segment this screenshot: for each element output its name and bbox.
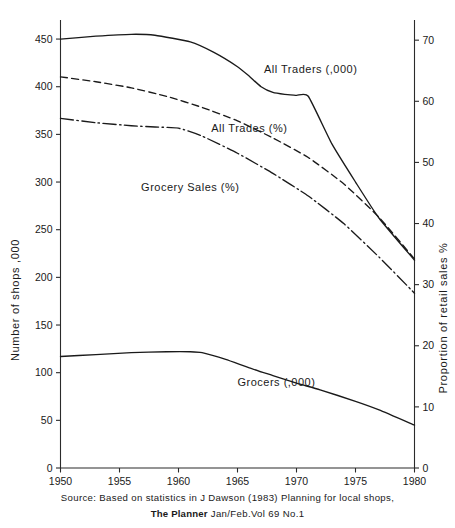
y-tick-label: 100 <box>35 366 53 378</box>
series-label-all-trades: All Trades (%) <box>211 122 287 134</box>
series-label-all-traders-000: All Traders (,000) <box>264 63 357 75</box>
x-tick-label: 1960 <box>167 475 191 487</box>
series-line-grocery-sales <box>61 118 415 293</box>
series-label-grocery-sales: Grocery Sales (%) <box>141 181 239 193</box>
series-line-grocers-000 <box>61 352 415 425</box>
y2-tick-label: 10 <box>423 401 435 413</box>
series-line-all-trades <box>61 77 415 259</box>
y2-tick-label: 60 <box>423 95 435 107</box>
y-tick-label: 150 <box>35 319 53 331</box>
y-tick-label: 50 <box>41 414 53 426</box>
caption-source-line: Source: Based on statistics in J Dawson … <box>0 492 455 503</box>
x-tick-label: 1950 <box>49 475 73 487</box>
x-tick-label: 1955 <box>108 475 132 487</box>
journal-issue: Jan/Feb.Vol 69 No.1 <box>211 508 305 519</box>
caption-journal-line: The Planner Jan/Feb.Vol 69 No.1 <box>0 508 455 519</box>
y-tick-label: 0 <box>47 462 53 474</box>
y-tick-label: 200 <box>35 271 53 283</box>
y-tick-label: 350 <box>35 128 53 140</box>
y-tick-label: 450 <box>35 33 53 45</box>
y2-tick-label: 70 <box>423 34 435 46</box>
journal-name: The Planner <box>151 508 208 519</box>
y-tick-label: 400 <box>35 80 53 92</box>
y2-tick-label: 30 <box>423 278 435 290</box>
y2-tick-label: 40 <box>423 217 435 229</box>
figure-container: 1950195519601965197019751980050100150200… <box>0 0 455 528</box>
x-tick-label: 1970 <box>285 475 309 487</box>
y2-tick-label: 0 <box>423 462 429 474</box>
y2-tick-label: 20 <box>423 339 435 351</box>
x-tick-label: 1980 <box>403 475 427 487</box>
series-label-grocers-000: Grocers (,000) <box>237 376 315 388</box>
y-axis-title: Number of shops ,000 <box>9 239 21 361</box>
x-tick-label: 1965 <box>226 475 250 487</box>
y2-tick-label: 50 <box>423 156 435 168</box>
y-tick-label: 250 <box>35 223 53 235</box>
series-line-all-traders-000 <box>61 34 415 260</box>
line-chart: 1950195519601965197019751980050100150200… <box>0 0 455 528</box>
y2-axis-title: Proportion of retail sales % <box>437 242 449 393</box>
x-tick-label: 1975 <box>344 475 368 487</box>
y-tick-label: 300 <box>35 176 53 188</box>
